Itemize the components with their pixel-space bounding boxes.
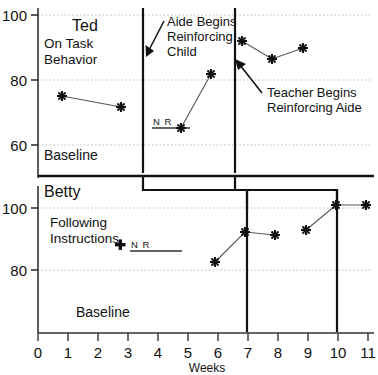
x-tick-2: 2: [94, 344, 102, 361]
x-tick-5: 5: [184, 344, 192, 361]
x-tick-4: 4: [154, 344, 162, 361]
betty-baseline-label: Baseline: [76, 304, 130, 320]
data-point: [331, 200, 341, 210]
data-point: [57, 91, 67, 101]
data-point: [176, 123, 186, 133]
annotation-aide-begins-line1: Aide Begins: [167, 14, 237, 29]
x-tick-8: 8: [274, 344, 282, 361]
x-tick-3: 3: [124, 344, 132, 361]
data-point: [116, 102, 126, 112]
x-tick-0: 0: [34, 344, 42, 361]
data-point: [237, 36, 247, 46]
ted-y-tick-60: 60: [10, 137, 27, 154]
betty-nr-label: N R: [131, 239, 150, 250]
betty-subtitle-line1: Following: [50, 215, 107, 230]
data-point: [240, 227, 250, 237]
ted-y-tick-80: 80: [10, 72, 27, 89]
ted-baseline-label: Baseline: [44, 147, 98, 163]
ted-series-aide-phase: [176, 69, 216, 133]
annotation-aide-begins-line2: Reinforcing: [167, 29, 233, 44]
betty-series-aide-phase: [210, 227, 280, 267]
x-ticks: [38, 333, 368, 341]
ted-series-baseline: [57, 91, 126, 112]
panel-betty: 100 80 Betty Following Instructions Base…: [2, 183, 372, 333]
data-point: [361, 200, 371, 210]
annotation-aide-begins-line3: Child: [167, 44, 197, 59]
ted-series-teacher-phase: [237, 36, 308, 64]
data-point: [270, 230, 280, 240]
betty-y-tick-100: 100: [2, 200, 27, 217]
data-point: [206, 69, 216, 79]
connector-phase-2: [235, 176, 337, 210]
x-tick-1: 1: [64, 344, 72, 361]
annotation-teacher-begins-line2: Reinforcing Aide: [267, 100, 362, 115]
connector-phase-1: [143, 176, 247, 210]
panel-ted: 100 80 60 Ted On Task Behavior Baseline …: [2, 7, 372, 178]
chart-svg: 100 80 60 Ted On Task Behavior Baseline …: [0, 0, 378, 375]
betty-panel-title: Betty: [44, 183, 80, 200]
x-tick-9: 9: [304, 344, 312, 361]
x-tick-11: 11: [360, 344, 376, 361]
x-tick-7: 7: [244, 344, 252, 361]
data-point: [301, 225, 311, 235]
x-tick-10: 10: [330, 344, 347, 361]
betty-y-ticks: [31, 208, 38, 270]
data-point: [298, 43, 308, 53]
ted-subtitle-line1: On Task: [44, 36, 94, 51]
data-point: [267, 54, 277, 64]
x-axis-label: Weeks: [189, 361, 225, 375]
ted-subtitle-line2: Behavior: [44, 52, 98, 67]
betty-subtitle-line2: Instructions: [50, 231, 119, 246]
annotation-aide-begins: Aide Begins Reinforcing Child: [146, 14, 237, 59]
data-point: [210, 257, 220, 267]
annotation-teacher-begins: Teacher Begins Reinforcing Aide: [235, 59, 362, 115]
single-subject-multiple-baseline-chart: 100 80 60 Ted On Task Behavior Baseline …: [0, 0, 378, 375]
ted-y-ticks: [31, 15, 38, 145]
annotation-teacher-begins-line1: Teacher Begins: [267, 85, 357, 100]
ted-nr-label: N R: [153, 116, 172, 127]
ted-panel-title: Ted: [72, 17, 98, 34]
ted-y-tick-100: 100: [2, 7, 27, 24]
x-axis: 0 1 2 3 4 5 6 7 8 9 10 11 Weeks: [34, 333, 376, 375]
panel-separator: [38, 176, 374, 210]
x-tick-6: 6: [214, 344, 222, 361]
betty-y-tick-80: 80: [10, 262, 27, 279]
